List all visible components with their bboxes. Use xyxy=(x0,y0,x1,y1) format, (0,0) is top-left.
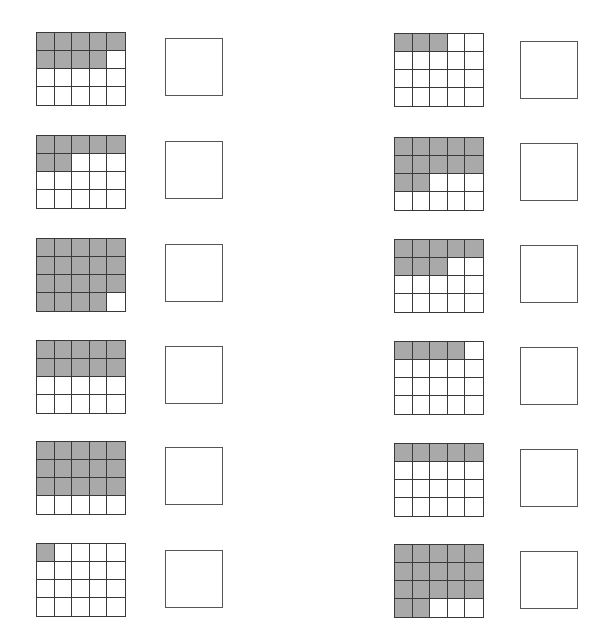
shaded-cell xyxy=(72,293,90,311)
empty-cell xyxy=(90,154,108,172)
empty-cell xyxy=(413,52,431,70)
shaded-grid xyxy=(36,135,126,209)
answer-box[interactable] xyxy=(520,449,578,507)
shaded-cell xyxy=(37,154,55,172)
shaded-cell xyxy=(448,342,466,360)
shaded-cell xyxy=(395,34,413,52)
shaded-cell xyxy=(90,239,108,257)
empty-cell xyxy=(413,480,431,498)
empty-cell xyxy=(90,87,108,105)
shaded-cell xyxy=(90,51,108,69)
shaded-cell xyxy=(413,174,431,192)
empty-cell xyxy=(448,276,466,294)
empty-cell xyxy=(90,580,108,598)
shaded-cell xyxy=(72,442,90,460)
empty-cell xyxy=(72,395,90,413)
empty-cell xyxy=(395,294,413,312)
answer-box[interactable] xyxy=(520,347,578,405)
empty-cell xyxy=(448,174,466,192)
empty-cell xyxy=(55,190,73,208)
shaded-cell xyxy=(448,156,466,174)
empty-cell xyxy=(107,544,125,562)
empty-cell xyxy=(107,172,125,190)
empty-cell xyxy=(395,396,413,414)
empty-cell xyxy=(55,87,73,105)
answer-box[interactable] xyxy=(165,447,223,505)
empty-cell xyxy=(37,496,55,514)
shaded-cell xyxy=(448,545,466,563)
shaded-cell xyxy=(107,478,125,496)
shaded-grid xyxy=(394,341,484,415)
answer-box[interactable] xyxy=(165,141,223,199)
shaded-cell xyxy=(413,545,431,563)
empty-cell xyxy=(395,70,413,88)
shaded-grid xyxy=(394,137,484,211)
empty-cell xyxy=(448,294,466,312)
shaded-cell xyxy=(107,33,125,51)
empty-cell xyxy=(430,174,448,192)
empty-cell xyxy=(430,70,448,88)
empty-cell xyxy=(90,598,108,616)
shaded-cell xyxy=(430,444,448,462)
answer-box[interactable] xyxy=(165,38,223,96)
shaded-cell xyxy=(90,442,108,460)
empty-cell xyxy=(37,377,55,395)
shaded-cell xyxy=(55,239,73,257)
empty-cell xyxy=(413,70,431,88)
empty-cell xyxy=(413,276,431,294)
empty-cell xyxy=(90,69,108,87)
empty-cell xyxy=(72,154,90,172)
empty-cell xyxy=(55,580,73,598)
shaded-cell xyxy=(413,138,431,156)
empty-cell xyxy=(107,87,125,105)
shaded-cell xyxy=(55,154,73,172)
shaded-cell xyxy=(413,342,431,360)
shaded-cell xyxy=(72,359,90,377)
shaded-cell xyxy=(107,257,125,275)
shaded-cell xyxy=(37,275,55,293)
empty-cell xyxy=(37,580,55,598)
empty-cell xyxy=(448,34,466,52)
empty-cell xyxy=(72,190,90,208)
shaded-cell xyxy=(107,460,125,478)
empty-cell xyxy=(55,69,73,87)
shaded-cell xyxy=(395,581,413,599)
shaded-cell xyxy=(395,258,413,276)
empty-cell xyxy=(107,154,125,172)
empty-cell xyxy=(430,378,448,396)
empty-cell xyxy=(448,599,466,617)
empty-cell xyxy=(465,34,483,52)
empty-cell xyxy=(465,294,483,312)
shaded-cell xyxy=(430,563,448,581)
answer-box[interactable] xyxy=(165,550,223,608)
empty-cell xyxy=(413,396,431,414)
empty-cell xyxy=(465,88,483,106)
empty-cell xyxy=(413,88,431,106)
empty-cell xyxy=(107,496,125,514)
empty-cell xyxy=(465,192,483,210)
shaded-cell xyxy=(90,341,108,359)
shaded-cell xyxy=(55,341,73,359)
empty-cell xyxy=(37,562,55,580)
shaded-cell xyxy=(55,359,73,377)
empty-cell xyxy=(430,480,448,498)
empty-cell xyxy=(55,395,73,413)
answer-box[interactable] xyxy=(520,41,578,99)
empty-cell xyxy=(465,599,483,617)
answer-box[interactable] xyxy=(165,346,223,404)
shaded-cell xyxy=(430,156,448,174)
empty-cell xyxy=(448,70,466,88)
shaded-cell xyxy=(90,275,108,293)
shaded-cell xyxy=(90,478,108,496)
shaded-cell xyxy=(55,136,73,154)
answer-box[interactable] xyxy=(520,245,578,303)
empty-cell xyxy=(72,580,90,598)
answer-box[interactable] xyxy=(520,551,578,609)
shaded-cell xyxy=(72,460,90,478)
answer-box[interactable] xyxy=(165,244,223,302)
empty-cell xyxy=(37,69,55,87)
shaded-grid xyxy=(36,441,126,515)
empty-cell xyxy=(465,342,483,360)
empty-cell xyxy=(90,496,108,514)
answer-box[interactable] xyxy=(520,143,578,201)
